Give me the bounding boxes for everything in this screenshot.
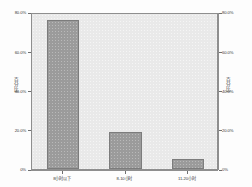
y-axis-left-tick-label: 0% [0,167,26,172]
x-axis-category-label: 11-20小时 [157,175,217,181]
y-axis-right-tick-label: 20.0% [222,128,252,133]
x-axis-tick [62,171,63,174]
y-axis-left-tick-label: 60.0% [0,50,26,55]
x-axis-category-label: 8小时以下 [32,175,92,181]
y-axis-left-tick [28,52,31,53]
y-axis-right-title: 百分比 [225,78,231,92]
bar-category-3[interactable] [172,159,204,169]
x-axis-tick [187,171,188,174]
y-axis-left-line [31,13,32,170]
y-axis-left-tick [28,13,31,14]
bar-chart: 0%20.0%40.0%60.0%80.0% 百分比 0%20.0%40.0%6… [0,0,252,187]
y-axis-right-tick-label: 0% [222,167,252,172]
y-axis-left-tick-label: 20.0% [0,128,26,133]
bar-category-1[interactable] [47,20,79,169]
plot-area [31,13,218,170]
x-axis-tick [125,171,126,174]
y-axis-right-tick-label: 60.0% [222,50,252,55]
y-axis-left-tick [28,91,31,92]
x-axis-category-label: 8-10小时 [95,175,155,181]
y-axis-left-tick-label: 80.0% [0,10,26,15]
y-axis-left-title: 百分比 [13,78,19,92]
y-axis-right-tick-label: 80.0% [222,10,252,15]
y-axis-left-tick [28,130,31,131]
bar-category-2[interactable] [109,132,141,169]
